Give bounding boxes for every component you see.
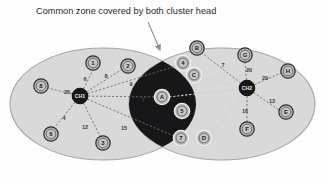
edge-weight-ch1-n4: 9 bbox=[129, 81, 132, 87]
node-C[interactable]: C bbox=[186, 67, 201, 82]
node-4[interactable]: 4 bbox=[175, 55, 190, 70]
figure-canvas: 6 8 25 4 12 9 7 15 7 20 29 13 16 2 6 19 … bbox=[0, 0, 325, 183]
node-H-label: H bbox=[286, 68, 290, 74]
network-diagram: 6 8 25 4 12 9 7 15 7 20 29 13 16 2 6 19 … bbox=[0, 0, 325, 183]
edge-weight-ch1-nA: 7 bbox=[141, 97, 144, 103]
edge-weight-ch2-nC: 2 bbox=[212, 76, 215, 82]
edge-weight-ch2-nG: 20 bbox=[246, 67, 252, 73]
cluster-head-2[interactable]: CH2 bbox=[239, 80, 255, 96]
node-2[interactable]: 2 bbox=[121, 59, 135, 73]
node-F-label: F bbox=[245, 126, 249, 132]
edge-weight-ch2-nE: 13 bbox=[269, 98, 275, 104]
node-3[interactable]: 3 bbox=[96, 136, 110, 150]
figure-caption: Common zone covered by both cluster head bbox=[36, 6, 216, 16]
annotation-pointer-line bbox=[148, 22, 160, 50]
node-D-label: D bbox=[202, 135, 207, 141]
edge-weight-ch1-n7: 15 bbox=[121, 125, 127, 131]
edge-weight-ch1-n3: 12 bbox=[82, 124, 88, 130]
node-A-label: A bbox=[160, 94, 165, 100]
node-C-label: C bbox=[192, 72, 197, 78]
node-7[interactable]: 7 bbox=[173, 130, 188, 145]
edge-weight-ch2-nH: 29 bbox=[262, 75, 268, 81]
node-6[interactable]: 6 bbox=[44, 127, 58, 141]
edge-weight-ch1-n2: 8 bbox=[104, 73, 107, 79]
node-D[interactable]: D bbox=[196, 130, 211, 145]
node-B-label: B bbox=[195, 45, 200, 51]
edge-weight-ch2-nB: 7 bbox=[221, 62, 224, 68]
node-1[interactable]: 1 bbox=[86, 56, 100, 70]
node-B[interactable]: B bbox=[190, 41, 204, 55]
node-A[interactable]: A bbox=[154, 89, 169, 104]
edge-weight-ch1-n8: 25 bbox=[64, 89, 70, 95]
node-5[interactable]: 5 bbox=[174, 103, 189, 118]
cluster-head-2-label: CH2 bbox=[242, 85, 252, 91]
node-F[interactable]: F bbox=[240, 122, 254, 136]
node-E[interactable]: E bbox=[279, 105, 293, 119]
edge-weight-ch2-nD: 19 bbox=[211, 111, 217, 117]
edge-weight-ch2-nF: 16 bbox=[242, 108, 248, 114]
cluster-head-1-label: CH1 bbox=[75, 93, 85, 99]
node-G-label: G bbox=[243, 52, 248, 58]
node-H[interactable]: H bbox=[281, 64, 295, 78]
edge-weight-ch1-n1: 6 bbox=[83, 76, 86, 82]
cluster-head-1[interactable]: CH1 bbox=[72, 88, 88, 104]
edge-weight-ch2-nA: 6 bbox=[208, 91, 211, 97]
node-8[interactable]: 8 bbox=[34, 79, 48, 93]
node-E-label: E bbox=[284, 109, 288, 115]
node-G[interactable]: G bbox=[238, 48, 252, 62]
